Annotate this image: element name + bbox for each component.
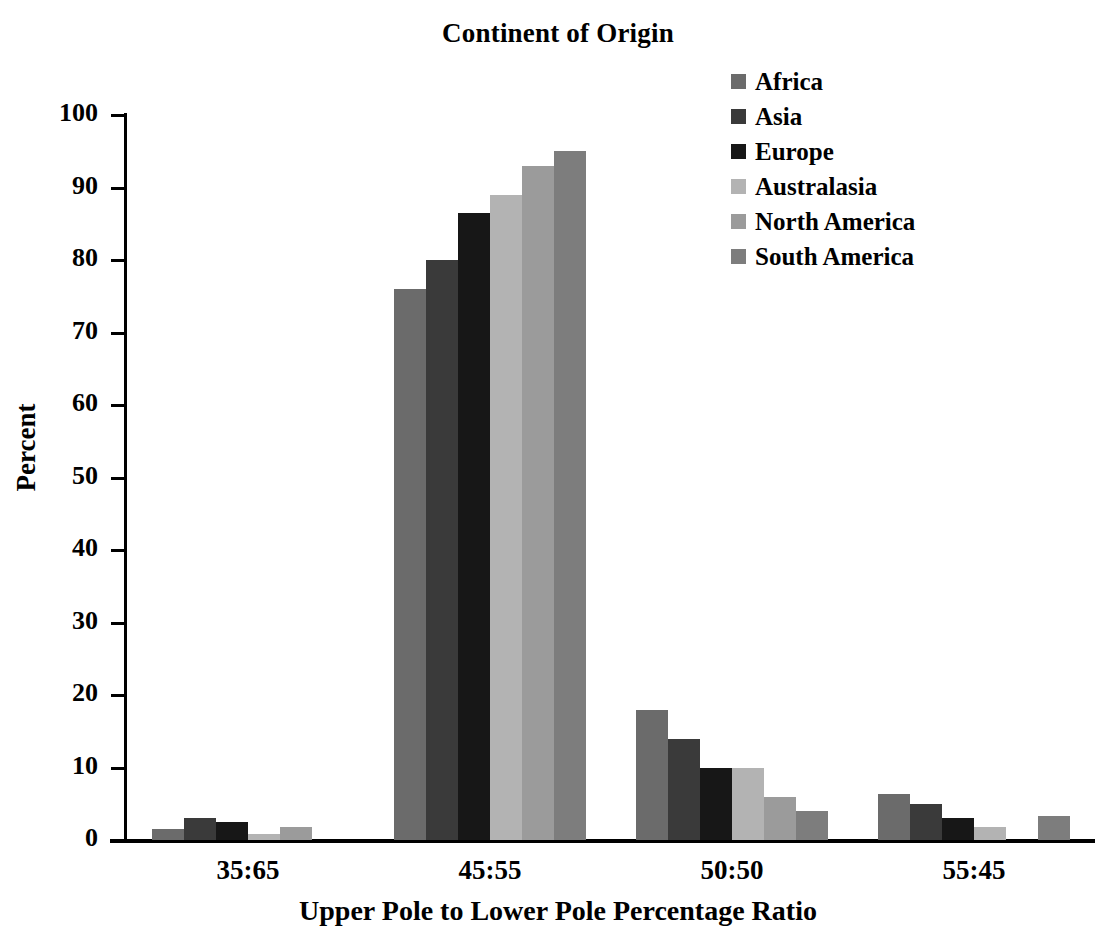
y-axis-tick [111,259,125,262]
bar [796,811,828,840]
legend-item[interactable]: Africa [731,64,1031,99]
bar [554,151,586,840]
x-axis-tick-label: 55:45 [894,855,1054,886]
y-axis-tick [111,187,125,190]
bar [764,797,796,841]
y-axis-tick-label: 90 [28,173,98,199]
chart-title: Continent of Origin [0,18,1116,49]
bar [910,804,942,840]
y-axis-tick-label: 30 [28,608,98,634]
y-axis-tick-label: 100 [28,100,98,126]
y-axis-tick [111,477,125,480]
bar [458,213,490,840]
legend-swatch-icon [731,74,746,89]
bar [184,818,216,840]
legend-item-label: Africa [755,69,823,94]
y-axis-title: Percent [11,378,42,518]
bar [394,289,426,840]
bar [216,822,248,840]
y-axis-tick-label: 70 [28,318,98,344]
bar-chart: Continent of Origin AfricaAsiaEuropeAust… [0,0,1116,945]
bar [248,834,280,840]
y-axis-tick [111,767,125,770]
y-axis-tick [111,114,125,117]
x-axis-tick-label: 45:55 [410,855,570,886]
y-axis-tick-label: 0 [28,825,98,851]
x-axis-title: Upper Pole to Lower Pole Percentage Rati… [0,895,1116,927]
y-axis-tick [111,404,125,407]
y-axis-tick-label: 20 [28,680,98,706]
bar [974,827,1006,840]
y-axis-tick [111,549,125,552]
bar [942,818,974,840]
bar [732,768,764,841]
bar [426,260,458,840]
bar [280,827,312,840]
y-axis-tick-label: 10 [28,753,98,779]
y-axis-tick-label: 80 [28,245,98,271]
plot-area [127,115,1095,840]
bar [668,739,700,841]
bar [1038,816,1070,840]
bar [878,794,910,840]
bar [700,768,732,841]
bar [522,166,554,840]
x-axis-tick-label: 50:50 [652,855,812,886]
y-axis-tick [111,332,125,335]
x-axis-tick-label: 35:65 [168,855,328,886]
bar [490,195,522,840]
y-axis-tick [111,839,125,842]
y-axis-tick-label: 40 [28,535,98,561]
y-axis-tick [111,694,125,697]
y-axis-tick [111,622,125,625]
bar [152,829,184,840]
bar [636,710,668,841]
